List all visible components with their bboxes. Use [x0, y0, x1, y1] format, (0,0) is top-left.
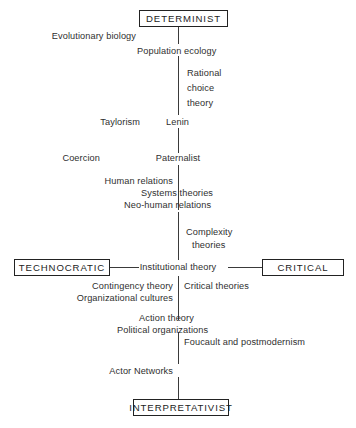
- connector-neohuman-to-complexity: [178, 212, 179, 260]
- box-critical-label: CRITICAL: [278, 263, 329, 273]
- box-interpretativist: INTERPRETATIVIST: [133, 399, 229, 416]
- connector-foucault-to-actor-networks: [178, 332, 179, 364]
- box-critical: CRITICAL: [262, 259, 344, 276]
- box-technocratic: TECHNOCRATIC: [14, 259, 110, 276]
- node-lenin: Lenin: [166, 117, 189, 129]
- node-human-relations: Human relations: [105, 176, 173, 188]
- node-paternalist: Paternalist: [156, 153, 201, 165]
- node-systems-theories: Systems theories: [141, 188, 213, 200]
- node-rational-choice-theory-line3: theory: [187, 98, 213, 110]
- node-rational-choice-theory-line2: choice: [187, 83, 214, 95]
- connector-institutional-to-critical: [228, 267, 262, 268]
- connector-lenin-to-paternalist: [178, 128, 179, 153]
- node-political-organizations: Political organizations: [117, 325, 208, 337]
- box-determinist-label: DETERMINIST: [146, 14, 221, 24]
- node-organizational-cultures: Organizational cultures: [77, 293, 173, 305]
- node-population-ecology: Population ecology: [137, 46, 216, 58]
- node-complexity-theories-line2: theories: [192, 240, 226, 252]
- node-rational-choice-theory-line1: Rational: [187, 68, 222, 80]
- connector-population-to-rational: [178, 56, 179, 115]
- node-institutional-theory: Institutional theory: [140, 262, 217, 274]
- node-foucault-and-postmodernism: Foucault and postmodernism: [184, 337, 305, 349]
- connector-determinist-to-population: [178, 27, 179, 44]
- node-complexity-theories-line1: Complexity: [186, 227, 232, 239]
- box-technocratic-label: TECHNOCRATIC: [19, 263, 105, 273]
- connector-actor-networks-to-interpretativist: [178, 377, 179, 399]
- node-contingency-theory: Contingency theory: [92, 281, 173, 293]
- theory-lineage-diagram: DETERMINIST TECHNOCRATIC CRITICAL INTERP…: [0, 0, 356, 428]
- node-neo-human-relations: Neo-human relations: [124, 200, 211, 212]
- box-determinist: DETERMINIST: [139, 10, 228, 27]
- connector-technocratic-to-institutional: [110, 267, 139, 268]
- node-critical-theories: Critical theories: [184, 281, 249, 293]
- node-evolutionary-biology: Evolutionary biology: [52, 31, 136, 43]
- box-interpretativist-label: INTERPRETATIVIST: [129, 403, 233, 413]
- node-taylorism: Taylorism: [100, 117, 140, 129]
- node-action-theory: Action theory: [139, 313, 194, 325]
- node-coercion: Coercion: [62, 153, 100, 165]
- node-actor-networks: Actor Networks: [109, 366, 173, 378]
